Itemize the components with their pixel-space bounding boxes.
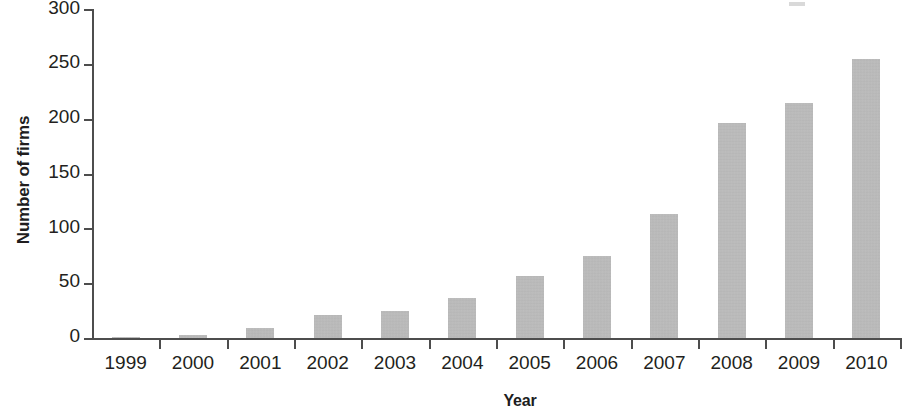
x-axis-tick <box>361 340 363 349</box>
x-axis-tick <box>294 340 296 349</box>
x-axis-title: Year <box>0 392 903 410</box>
x-axis-tick <box>563 340 565 349</box>
bar <box>112 337 140 338</box>
x-axis-tick <box>227 340 229 349</box>
bar <box>852 59 880 338</box>
x-axis-tick <box>631 340 633 349</box>
bar <box>381 311 409 338</box>
bar <box>583 256 611 338</box>
x-axis-tick <box>900 340 902 349</box>
y-tick-label: 0 <box>6 325 80 347</box>
y-tick-label: 100 <box>6 216 80 238</box>
bar <box>246 328 274 338</box>
y-tick-label: 250 <box>6 51 80 73</box>
x-axis-tick <box>159 340 161 349</box>
y-tick-label: 150 <box>6 161 80 183</box>
x-axis-tick <box>833 340 835 349</box>
bar <box>785 103 813 338</box>
x-axis-tick <box>765 340 767 349</box>
bar <box>650 214 678 338</box>
bar <box>516 276 544 338</box>
y-tick-label: 200 <box>6 106 80 128</box>
x-axis-tick <box>698 340 700 349</box>
x-tick-label: 2010 <box>826 352 903 374</box>
plot-area <box>92 10 900 338</box>
x-axis-tick <box>496 340 498 349</box>
bar <box>314 315 342 338</box>
x-axis-line <box>84 338 902 340</box>
y-tick-label: 300 <box>6 0 80 19</box>
bar <box>448 298 476 338</box>
bar <box>179 335 207 338</box>
scan-artifact <box>789 2 805 6</box>
x-axis-tick <box>429 340 431 349</box>
y-tick-label: 50 <box>6 270 80 292</box>
bar-chart: Number of firms 300 250 200 150 100 50 0… <box>0 0 903 419</box>
bar <box>718 123 746 338</box>
